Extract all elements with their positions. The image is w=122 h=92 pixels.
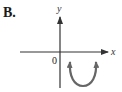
parabola-left-branch [70, 62, 83, 86]
origin-label: 0 [52, 56, 57, 66]
parabola-right-branch [83, 62, 96, 86]
x-axis-label: x [111, 47, 115, 57]
y-axis-label: y [57, 4, 61, 14]
